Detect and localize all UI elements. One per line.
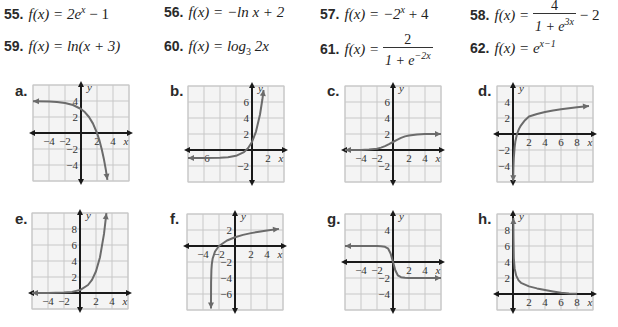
x-axis-label: x [587, 296, 593, 308]
svg-text:2: 2 [248, 248, 254, 260]
svg-text:8: 8 [574, 296, 580, 308]
problem-57: 57.f(x) = −2x + 4 [320, 4, 428, 23]
problem-58: 58.f(x) = 41 + e3x − 2 [470, 0, 600, 35]
fraction: 41 + e3x [533, 0, 576, 35]
x-axis-label: x [122, 295, 128, 307]
graph-c: −4−224642−2xy [345, 86, 449, 194]
y-axis-label: y [518, 210, 524, 222]
y-axis-label: y [398, 210, 404, 222]
svg-text:6: 6 [505, 240, 511, 252]
y-axis-label: y [398, 82, 404, 94]
svg-text:4: 4 [110, 135, 116, 147]
x-axis-label: x [277, 248, 283, 260]
svg-text:2: 2 [72, 271, 78, 283]
graph-h: 24688642xy [497, 214, 601, 322]
svg-text:8: 8 [72, 223, 78, 235]
svg-text:−4: −4 [66, 159, 78, 171]
svg-text:−4: −4 [42, 295, 54, 307]
graph-svg: 246842−2−4xy [489, 78, 601, 190]
svg-text:4: 4 [422, 264, 428, 276]
svg-text:−2: −2 [66, 143, 78, 155]
svg-text:2: 2 [265, 152, 271, 164]
graph-svg: 24688642xy [489, 206, 601, 318]
svg-text:−2: −2 [378, 160, 390, 172]
svg-text:4: 4 [505, 256, 511, 268]
graph-d: 246842−2−4xy [497, 86, 601, 194]
svg-text:2: 2 [406, 264, 412, 276]
y-axis-label: y [86, 81, 92, 93]
svg-text:−4: −4 [355, 152, 367, 164]
svg-text:−2: −2 [498, 144, 510, 156]
svg-text:4: 4 [422, 152, 428, 164]
svg-text:4: 4 [264, 248, 270, 260]
graph-svg: −4−224642−2xy [337, 78, 449, 190]
graph-f: −4−2242−2−4−6xy [187, 214, 291, 322]
svg-text:6: 6 [558, 296, 564, 308]
svg-text:−4: −4 [378, 288, 390, 300]
svg-text:2: 2 [227, 224, 233, 236]
svg-text:−2: −2 [220, 256, 232, 268]
x-axis-label: x [123, 135, 129, 147]
graph-a: −4−22442−2−4xy [33, 85, 137, 193]
svg-text:−4: −4 [355, 264, 367, 276]
svg-text:−4: −4 [197, 248, 209, 260]
svg-text:−2: −2 [237, 160, 249, 172]
fraction: 21 + e−2x [383, 32, 433, 69]
graph-label-f: f. [170, 210, 179, 227]
problem-55: 55.f(x) = 2ex − 1 [4, 4, 109, 23]
svg-text:6: 6 [558, 136, 564, 148]
y-axis-label: y [240, 210, 246, 222]
svg-text:2: 2 [244, 128, 250, 140]
svg-text:4: 4 [385, 224, 391, 236]
y-axis-label: y [257, 82, 263, 94]
y-axis-label: y [518, 82, 524, 94]
y-axis-label: y [85, 209, 91, 221]
svg-text:−6: −6 [220, 288, 232, 300]
svg-text:−2: −2 [58, 295, 70, 307]
graph-b: −62642−2xy [188, 86, 292, 194]
svg-text:4: 4 [109, 295, 115, 307]
graph-e: −4−2248642xy [32, 213, 136, 321]
svg-text:6: 6 [244, 96, 250, 108]
svg-text:−4: −4 [43, 135, 55, 147]
svg-text:2: 2 [526, 136, 532, 148]
problem-62: 62.f(x) = ex−1 [470, 38, 556, 57]
svg-text:−2: −2 [378, 272, 390, 284]
svg-text:2: 2 [73, 111, 79, 123]
x-axis-label: x [587, 136, 593, 148]
svg-text:2: 2 [93, 295, 99, 307]
problem-56: 56.f(x) = −ln x + 2 [164, 4, 284, 21]
svg-text:2: 2 [505, 272, 511, 284]
x-axis-label: x [435, 264, 441, 276]
svg-text:2: 2 [406, 152, 412, 164]
x-axis-label: x [278, 152, 284, 164]
problem-59: 59.f(x) = ln(x + 3) [4, 38, 120, 55]
graph-svg: −4−2248642xy [24, 205, 136, 317]
graph-svg: −62642−2xy [180, 78, 292, 190]
svg-text:2: 2 [505, 112, 511, 124]
svg-text:4: 4 [72, 255, 78, 267]
graph-svg: −4−2242−2−4−6xy [179, 206, 291, 318]
svg-text:6: 6 [72, 239, 78, 251]
svg-text:4: 4 [542, 296, 548, 308]
problem-60: 60.f(x) = log3 2x [164, 38, 269, 57]
svg-text:8: 8 [505, 224, 511, 236]
svg-text:2: 2 [526, 296, 532, 308]
svg-text:6: 6 [385, 96, 391, 108]
svg-text:4: 4 [244, 112, 250, 124]
graph-g: −4−2244−2−4xy [345, 214, 449, 322]
svg-text:4: 4 [385, 112, 391, 124]
svg-text:−4: −4 [498, 160, 510, 172]
x-axis-label: x [435, 152, 441, 164]
svg-text:4: 4 [505, 96, 511, 108]
svg-text:2: 2 [385, 128, 391, 140]
svg-text:8: 8 [574, 136, 580, 148]
svg-text:−4: −4 [220, 272, 232, 284]
svg-text:4: 4 [542, 136, 548, 148]
graph-svg: −4−2244−2−4xy [337, 206, 449, 318]
graph-svg: −4−22442−2−4xy [25, 77, 137, 189]
problem-61: 61.f(x) = 21 + e−2x [320, 32, 433, 69]
